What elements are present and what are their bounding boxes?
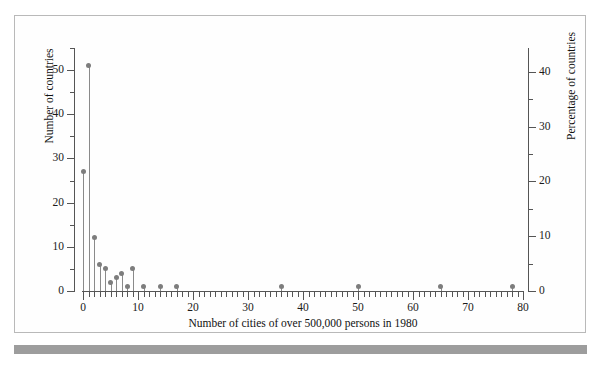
x-axis-minor-tick: [287, 292, 288, 297]
x-axis-major-tick: [83, 292, 84, 300]
x-axis-minor-tick: [171, 292, 172, 297]
y-axis-right-minor-tick: [529, 154, 533, 155]
y-axis-left-title: Number of countries: [44, 16, 56, 176]
y-axis-right-title: Percentage of countries: [566, 0, 578, 176]
y-axis-left-minor-tick: [70, 225, 74, 226]
x-axis-minor-tick: [281, 292, 282, 297]
x-axis-minor-tick: [342, 292, 343, 297]
y-axis-left-major-tick: [67, 158, 74, 159]
y-axis-right-line: [528, 48, 529, 292]
x-axis-tick-label: 40: [291, 302, 315, 314]
x-axis-tick-label: 20: [181, 302, 205, 314]
x-axis-title: Number of cities of over 500,000 persons…: [83, 318, 523, 330]
x-axis-major-tick: [303, 292, 304, 300]
data-point-marker[interactable]: [119, 271, 124, 276]
x-axis-minor-tick: [210, 292, 211, 297]
data-point-marker[interactable]: [438, 284, 443, 289]
x-axis-minor-tick: [188, 292, 189, 297]
x-axis-minor-tick: [237, 292, 238, 297]
x-axis-minor-tick: [375, 292, 376, 297]
x-axis-minor-tick: [408, 292, 409, 297]
x-axis-minor-tick: [259, 292, 260, 297]
data-stem: [105, 269, 106, 291]
x-axis-major-tick: [358, 292, 359, 300]
x-axis-tick-label: 10: [126, 302, 150, 314]
x-axis-minor-tick: [490, 292, 491, 297]
y-axis-right-major-tick: [529, 127, 536, 128]
x-axis-minor-tick: [177, 292, 178, 297]
x-axis-minor-tick: [435, 292, 436, 297]
x-axis-minor-tick: [320, 292, 321, 297]
data-point-marker[interactable]: [279, 284, 284, 289]
data-point-marker[interactable]: [81, 169, 86, 174]
x-axis-minor-tick: [353, 292, 354, 297]
y-axis-right-minor-tick: [529, 264, 533, 265]
x-axis-minor-tick: [419, 292, 420, 297]
x-axis-minor-tick: [127, 292, 128, 297]
data-point-marker[interactable]: [125, 284, 130, 289]
y-axis-right-minor-tick: [529, 209, 533, 210]
x-axis-minor-tick: [325, 292, 326, 297]
y-axis-left-minor-tick: [70, 92, 74, 93]
x-axis-minor-tick: [463, 292, 464, 297]
y-axis-left-tick-label: 0: [40, 285, 64, 297]
x-axis-minor-tick: [309, 292, 310, 297]
x-axis-minor-tick: [111, 292, 112, 297]
data-point-marker[interactable]: [103, 266, 108, 271]
x-axis-minor-tick: [485, 292, 486, 297]
x-axis-minor-tick: [474, 292, 475, 297]
x-axis-minor-tick: [116, 292, 117, 297]
data-point-marker[interactable]: [158, 284, 163, 289]
data-point-marker[interactable]: [108, 280, 113, 285]
x-axis-minor-tick: [397, 292, 398, 297]
data-point-marker[interactable]: [97, 262, 102, 267]
data-point-marker[interactable]: [92, 235, 97, 240]
y-axis-right-major-tick: [529, 181, 536, 182]
x-axis-minor-tick: [204, 292, 205, 297]
data-stem: [100, 264, 101, 291]
data-point-marker[interactable]: [114, 275, 119, 280]
data-point-marker[interactable]: [174, 284, 179, 289]
y-axis-left-tick-label: 20: [40, 197, 64, 209]
x-axis-minor-tick: [226, 292, 227, 297]
x-axis-minor-tick: [479, 292, 480, 297]
y-axis-right-tick-label: 10: [539, 230, 563, 242]
data-stem: [94, 238, 95, 291]
y-axis-left-minor-tick: [70, 136, 74, 137]
x-axis-minor-tick: [94, 292, 95, 297]
x-axis-minor-tick: [243, 292, 244, 297]
data-point-marker[interactable]: [141, 284, 146, 289]
y-axis-right-major-tick: [529, 291, 536, 292]
y-axis-right-minor-tick: [529, 99, 533, 100]
y-axis-left-major-tick: [67, 247, 74, 248]
x-axis-minor-tick: [182, 292, 183, 297]
data-stem: [122, 273, 123, 291]
x-axis-tick-label: 70: [456, 302, 480, 314]
x-axis-minor-tick: [441, 292, 442, 297]
x-axis-tick-label: 0: [71, 302, 95, 314]
x-axis-minor-tick: [314, 292, 315, 297]
y-axis-right-tick-label: 20: [539, 175, 563, 187]
x-axis-minor-tick: [144, 292, 145, 297]
x-axis-minor-tick: [518, 292, 519, 297]
x-axis-minor-tick: [347, 292, 348, 297]
x-axis-minor-tick: [155, 292, 156, 297]
data-point-marker[interactable]: [356, 284, 361, 289]
y-axis-left-major-tick: [67, 203, 74, 204]
x-axis-minor-tick: [232, 292, 233, 297]
x-axis-minor-tick: [512, 292, 513, 297]
x-axis-minor-tick: [430, 292, 431, 297]
y-axis-right-tick-label: 40: [539, 66, 563, 78]
x-axis-minor-tick: [100, 292, 101, 297]
y-axis-right-major-tick: [529, 72, 536, 73]
y-axis-left-line: [74, 48, 75, 292]
data-stem: [83, 172, 84, 291]
x-axis-minor-tick: [391, 292, 392, 297]
y-axis-left-major-tick: [67, 70, 74, 71]
data-point-marker[interactable]: [130, 266, 135, 271]
y-axis-left-major-tick: [67, 291, 74, 292]
x-axis-tick-label: 50: [346, 302, 370, 314]
data-point-marker[interactable]: [510, 284, 515, 289]
data-point-marker[interactable]: [86, 63, 91, 68]
x-axis-minor-tick: [265, 292, 266, 297]
